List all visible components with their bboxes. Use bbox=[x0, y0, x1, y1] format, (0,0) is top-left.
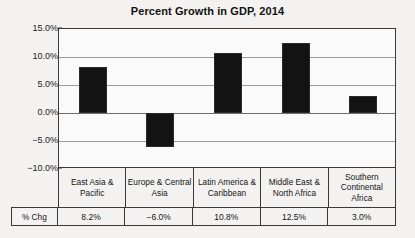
bar bbox=[282, 43, 310, 113]
plot-area bbox=[58, 28, 396, 168]
data-table: East Asia & PacificEurope & Central Asia… bbox=[11, 168, 396, 228]
zero-line bbox=[59, 113, 395, 114]
table-value-cell: −6.0% bbox=[125, 208, 193, 225]
table-value-row: % Chg 8.2%−6.0%10.8%12.5%3.0% bbox=[11, 207, 396, 226]
table-header-cell: Middle East & North Africa bbox=[261, 168, 328, 207]
y-axis-label: −5.0% bbox=[6, 135, 58, 145]
bar bbox=[146, 113, 174, 147]
table-value-cell: 10.8% bbox=[193, 208, 261, 225]
bar bbox=[214, 53, 242, 113]
bar bbox=[79, 67, 107, 113]
y-axis-label: 0.0% bbox=[6, 107, 58, 117]
gdp-growth-chart-figure: Percent Growth in GDP, 2014 15.0%10.0%5.… bbox=[0, 0, 415, 238]
y-axis-label: 10.0% bbox=[6, 51, 58, 61]
bar bbox=[349, 96, 377, 113]
table-value-cell: 12.5% bbox=[261, 208, 329, 225]
table-header-cell: Latin America & Caribbean bbox=[194, 168, 261, 207]
table-header-cell: Southern Continental Africa bbox=[329, 168, 395, 207]
chart-title: Percent Growth in GDP, 2014 bbox=[0, 5, 415, 17]
table-value-cell: 3.0% bbox=[328, 208, 395, 225]
y-axis-label: 5.0% bbox=[6, 79, 58, 89]
row-label-cell: % Chg bbox=[12, 208, 58, 225]
table-header-row: East Asia & PacificEurope & Central Asia… bbox=[58, 168, 396, 207]
y-axis-label: 15.0% bbox=[6, 23, 58, 33]
gridline bbox=[59, 141, 395, 142]
table-header-cell: East Asia & Pacific bbox=[59, 168, 126, 207]
y-axis: 15.0%10.0%5.0%0.0%−5.0%−10.0% bbox=[0, 28, 58, 168]
table-header-cell: Europe & Central Asia bbox=[126, 168, 193, 207]
table-value-cell: 8.2% bbox=[58, 208, 126, 225]
